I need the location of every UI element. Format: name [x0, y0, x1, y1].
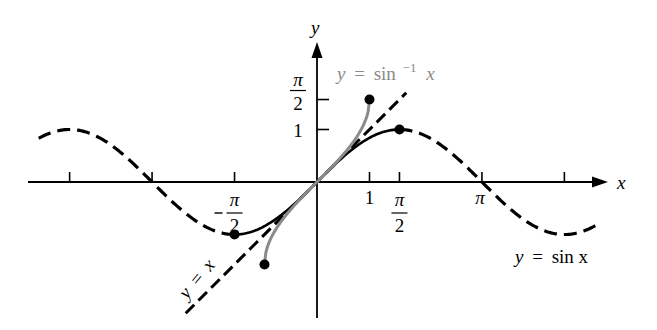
x-tick-label: π: [475, 187, 485, 208]
x-tick-label-numerator: π: [395, 189, 405, 210]
y-axis-label: y: [309, 17, 320, 38]
x-tick-label-fraction: π2: [391, 189, 407, 236]
arcsin-lower-endpoint: [260, 259, 270, 269]
identity-label-rhs: x: [197, 254, 220, 275]
identity-line-label: y = x: [173, 254, 220, 304]
arcsin-label-func: sin: [374, 63, 397, 84]
x-tick-label-denominator: 2: [395, 215, 405, 236]
y-tick-label-fraction: π2: [290, 69, 306, 114]
sine-curve-label: y = sin x: [513, 246, 589, 267]
axes: x y: [28, 17, 626, 318]
arcsin-label-lhs: y: [335, 63, 346, 84]
identity-label-equals: =: [185, 268, 208, 290]
arcsin-label-sup: −1: [403, 60, 417, 75]
x-axis-arrowhead: [592, 177, 608, 188]
y-axis-arrowhead: [312, 42, 323, 58]
sine-label-equals: =: [532, 246, 543, 267]
sin-min-point: [230, 230, 240, 240]
x-tick-label-numerator: π: [230, 189, 240, 210]
sin-max-point: [394, 125, 404, 135]
y-tick-label-numerator: π: [293, 69, 303, 90]
sine-label-lhs: y: [513, 246, 524, 267]
arcsin-curve-label: y = sin −1 x: [335, 55, 435, 84]
y-tick-label-denominator: 2: [293, 93, 303, 114]
x-tick-label-fraction: π2: [215, 189, 243, 236]
x-axis-label: x: [616, 172, 626, 193]
function-graph-figure: x y π21π2ππ21 y = sin −1 x y = sin x y =…: [0, 0, 657, 330]
sine-label-rhs: sin x: [552, 246, 589, 267]
y-tick-label: 1: [293, 120, 303, 141]
identity-label-lhs: y: [173, 282, 196, 304]
arcsin-label-var: x: [425, 63, 435, 84]
arcsin-upper-endpoint: [365, 95, 375, 105]
arcsin-label-equals: =: [354, 63, 365, 84]
x-tick-label: 1: [365, 187, 375, 208]
